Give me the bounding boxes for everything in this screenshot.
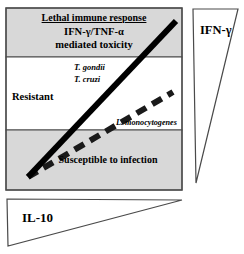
band-lethal-subtitle-toxicity: mediated toxicity (55, 40, 132, 51)
band-lethal-subtitle-cytokines: IFN-γ/TNF-α (64, 27, 124, 38)
series-label-t-cruzi: T. cruzi (74, 75, 100, 84)
ifn-gamma-gradient-label: IFN-γ (200, 24, 232, 37)
immune-response-schematic: Lethal immune response IFN-γ/TNF-α media… (0, 0, 244, 254)
series-label-t-gondii: T. gondii (74, 63, 105, 72)
band-resistant-label: Resistant (12, 92, 53, 103)
series-label-l-monocytogenes: L. monocytogenes (116, 119, 177, 127)
band-susceptible-label: Susceptible to infection (59, 155, 158, 165)
il-10-gradient-label: IL-10 (22, 211, 53, 224)
band-lethal-title: Lethal immune response (42, 13, 147, 23)
